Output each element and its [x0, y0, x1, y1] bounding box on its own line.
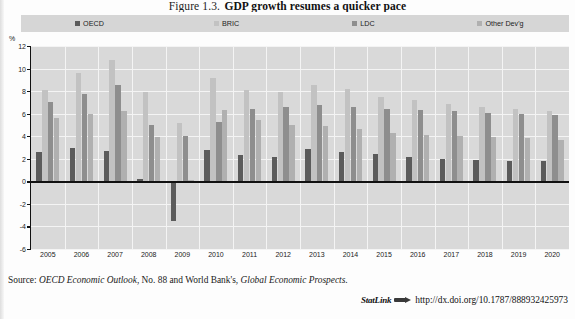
bar-ldc-2012: [283, 107, 288, 181]
bar-other-dev-g-2011: [256, 120, 261, 181]
y-axis-tick: [27, 226, 31, 227]
y-axis-tick: [27, 249, 31, 250]
x-axis-tick-label: 2013: [300, 251, 334, 265]
bar-oecd-2007: [104, 151, 109, 181]
legend-label: LDC: [360, 19, 374, 28]
y-axis-unit-label: %: [9, 35, 15, 42]
bar-group-bars: [502, 46, 536, 249]
statlink-row[interactable]: StatLink http://dx.doi.org/10.1787/88893…: [361, 295, 568, 305]
bar-ldc-2008: [149, 125, 154, 181]
figure-number: Figure 1.3.: [169, 0, 220, 12]
bar-oecd-2016: [406, 157, 411, 182]
bar-ldc-2019: [519, 114, 524, 182]
y-axis-tick-label: 0: [4, 178, 26, 185]
bar-ldc-2020: [552, 115, 557, 182]
bar-other-dev-g-2008: [155, 137, 160, 181]
gridline: [31, 249, 569, 250]
y-axis-tick-label: 2: [4, 155, 26, 162]
bar-ldc-2016: [418, 110, 423, 181]
x-axis-tick-label: 2009: [166, 251, 200, 265]
bar-bric-2005: [42, 90, 47, 181]
bar-other-dev-g-2010: [222, 110, 227, 181]
bar-other-dev-g-2015: [390, 133, 395, 181]
bar-other-dev-g-2017: [457, 136, 462, 181]
bar-ldc-2009: [183, 136, 188, 181]
bar-ldc-2017: [452, 111, 457, 181]
bar-oecd-2005: [36, 152, 41, 181]
x-axis-tick-label: 2008: [132, 251, 166, 265]
legend-item-other-dev-g: Other Dev'g: [432, 19, 569, 28]
x-axis-tick-label: 2014: [334, 251, 368, 265]
bar-oecd-2014: [339, 152, 344, 181]
y-axis-tick: [27, 159, 31, 160]
page-title: GDP growth resumes a quicker pace: [224, 0, 406, 12]
bar-oecd-2006: [70, 148, 75, 182]
bar-bric-2013: [311, 85, 316, 181]
bar-group-bars: [233, 46, 267, 249]
bar-group-bars: [401, 46, 435, 249]
bar-ldc-2005: [48, 102, 53, 181]
bar-other-dev-g-2016: [424, 135, 429, 181]
figure-container: Figure 1.3. GDP growth resumes a quicker…: [0, 0, 575, 319]
source-suffix: .: [345, 275, 347, 285]
bar-oecd-2019: [507, 161, 512, 181]
x-axis-tick-label: 2018: [468, 251, 502, 265]
bar-bric-2009: [177, 123, 182, 182]
source-prefix: Source:: [8, 275, 37, 285]
y-axis-tick-label: 10: [4, 65, 26, 72]
y-axis-tick: [27, 204, 31, 205]
bar-group-bars: [435, 46, 469, 249]
x-axis-tick-label: 2012: [266, 251, 300, 265]
x-axis-tick-label: 2017: [435, 251, 469, 265]
bar-oecd-2010: [204, 150, 209, 182]
bar-oecd-2011: [238, 155, 243, 181]
bar-group-bars: [300, 46, 334, 249]
y-axis-tick-label: 12: [4, 43, 26, 50]
x-axis-tick-label: 2006: [65, 251, 99, 265]
x-axis-tick-label: 2015: [367, 251, 401, 265]
bar-group-bars: [367, 46, 401, 249]
legend-swatch-oecd: [75, 21, 80, 26]
source-publication-2: Global Economic Prospects: [241, 275, 346, 285]
legend-item-oecd: OECD: [21, 19, 158, 28]
bar-group-2007: [98, 46, 132, 249]
y-axis-labels: 121086420-2-4-6: [0, 46, 26, 249]
x-axis-labels: 2005200620072008200920102011201220132014…: [31, 251, 569, 265]
bar-ldc-2014: [351, 107, 356, 181]
legend-swatch-bric: [214, 21, 219, 26]
bar-ldc-2018: [485, 113, 490, 182]
bar-other-dev-g-2005: [54, 118, 59, 181]
bar-groups: [31, 46, 569, 249]
legend-swatch-otherdevg: [477, 21, 482, 26]
bar-bric-2011: [244, 90, 249, 181]
bar-oecd-2009: [171, 181, 176, 220]
y-axis-tick-label: 8: [4, 88, 26, 95]
y-axis-line: [30, 46, 31, 249]
bar-group-2014: [334, 46, 368, 249]
bar-group-2005: [31, 46, 65, 249]
bar-group-bars: [132, 46, 166, 249]
bar-group-2017: [435, 46, 469, 249]
bar-group-2019: [502, 46, 536, 249]
bar-other-dev-g-2014: [357, 129, 362, 181]
bar-other-dev-g-2006: [88, 114, 93, 182]
bar-group-bars: [266, 46, 300, 249]
figure-title: Figure 1.3. GDP growth resumes a quicker…: [0, 0, 575, 12]
bar-bric-2014: [345, 89, 350, 181]
bar-bric-2017: [446, 104, 451, 182]
x-axis-tick-label: 2019: [502, 251, 536, 265]
x-axis-tick-label: 2010: [199, 251, 233, 265]
statlink-url[interactable]: http://dx.doi.org/10.1787/888932425973: [415, 295, 568, 305]
bar-group-bars: [98, 46, 132, 249]
bar-other-dev-g-2018: [491, 137, 496, 181]
x-axis-tick-label: 2011: [233, 251, 267, 265]
bar-group-bars: [31, 46, 65, 249]
bar-group-bars: [65, 46, 99, 249]
bar-bric-2007: [109, 60, 114, 182]
zero-baseline: [31, 181, 569, 183]
legend-item-bric: BRIC: [158, 19, 295, 28]
bar-oecd-2020: [541, 161, 546, 181]
bar-group-2011: [233, 46, 267, 249]
bar-group-bars: [535, 46, 569, 249]
bar-ldc-2007: [115, 85, 120, 181]
